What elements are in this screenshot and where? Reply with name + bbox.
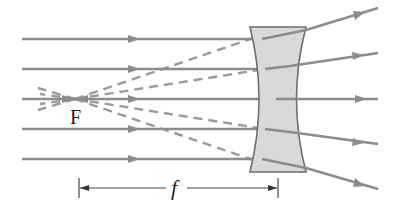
focal-length-label: f <box>171 175 180 200</box>
focal-length-dimension: f <box>79 175 278 200</box>
incoming-rays <box>22 39 276 159</box>
diverging-lens-diagram: F f <box>0 0 400 219</box>
focal-point-label: F <box>70 106 81 128</box>
